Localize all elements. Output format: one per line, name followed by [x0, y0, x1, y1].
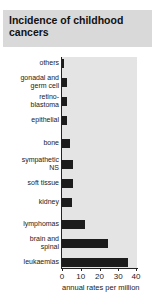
chart-title-box: Incidence of childhood cancers — [3, 10, 152, 47]
x-axis-label: annual rates per million — [62, 283, 138, 292]
bar — [62, 116, 67, 125]
y-axis — [61, 57, 62, 269]
category-label: retino- blastoma — [31, 93, 59, 109]
x-tick — [118, 268, 119, 271]
x-tick-label: 20 — [95, 272, 104, 281]
category-label: gonadal and germ cell — [20, 74, 59, 90]
bar — [62, 59, 64, 68]
category-label: sympathetic NS — [22, 156, 59, 172]
category-label: brain and spinal — [30, 235, 59, 251]
category-label: lymphomas — [23, 220, 59, 228]
category-label: others — [40, 59, 59, 67]
x-tick — [100, 268, 101, 271]
bar — [62, 198, 72, 207]
bar — [62, 78, 67, 87]
category-label: soft tissue — [27, 179, 59, 187]
x-tick-label: 10 — [76, 272, 85, 281]
x-tick-label: 30 — [114, 272, 123, 281]
category-label: epithelial — [31, 116, 59, 124]
bar — [62, 258, 128, 267]
x-tick — [136, 268, 137, 271]
bar — [62, 220, 85, 229]
chart-title: Incidence of childhood cancers — [9, 14, 146, 38]
x-tick-label: 40 — [132, 272, 141, 281]
x-tick — [81, 268, 82, 271]
bar — [62, 179, 73, 188]
x-tick — [62, 268, 63, 271]
plot-area — [62, 57, 137, 268]
x-tick-label: 0 — [60, 272, 64, 281]
bar — [62, 139, 70, 148]
bar — [62, 97, 67, 106]
bar — [62, 160, 73, 169]
category-label: leukaemias — [24, 258, 59, 266]
category-label: kidney — [39, 198, 59, 206]
category-label: bone — [43, 139, 59, 147]
bar — [62, 239, 108, 248]
